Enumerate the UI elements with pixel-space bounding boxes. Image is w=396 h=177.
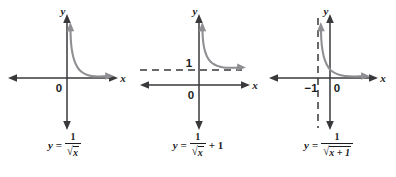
- panel-2-caption: y = 1 √ x + 1: [132, 132, 264, 158]
- panel-3-plot: y x −1 0: [264, 0, 396, 132]
- x-axis-arrow-left: [140, 81, 149, 89]
- curve-inverse-sqrt-x-plus-1-shift: [321, 31, 362, 77]
- equation-1-denominator: √ x: [65, 144, 81, 158]
- equation-2-lhs: y: [173, 140, 178, 151]
- x-axis-arrow-left: [269, 74, 278, 82]
- equation-2-equals: =: [181, 140, 187, 151]
- equation-2-addend: + 1: [209, 140, 224, 151]
- equation-3-lhs: y: [304, 140, 309, 151]
- graph-panel-2: y x 1 0 y = 1 √ x + 1: [132, 0, 264, 177]
- graph-panel-3: y x −1 0 y = 1 √ x + 1: [264, 0, 396, 177]
- radical-icon: √ x: [67, 145, 79, 158]
- curve-inverse-sqrt-x: [71, 31, 107, 77]
- y-axis-arrow-down: [195, 121, 203, 130]
- y-axis-label: y: [322, 5, 329, 17]
- equation-1-fraction: 1 √ x: [65, 132, 81, 158]
- radical-sign: √: [323, 144, 329, 158]
- panel-2-plot: y x 1 0: [132, 0, 264, 132]
- radical-sign: √: [192, 144, 198, 158]
- equation-2-denominator: √ x: [190, 144, 206, 158]
- x-tick-label-minus-1: −1: [304, 82, 318, 94]
- equation-3-numerator: 1: [332, 132, 343, 143]
- equation-3-radicand: x + 1: [329, 146, 351, 158]
- equation-2: y = 1 √ x + 1: [173, 132, 224, 158]
- equation-2-radicand: x: [198, 146, 204, 158]
- y-tick-label-1: 1: [186, 57, 193, 69]
- equation-1-lhs: y: [48, 140, 53, 151]
- radical-sign: √: [67, 144, 73, 158]
- panel-1-caption: y = 1 √ x: [0, 132, 132, 158]
- origin-label: 0: [334, 82, 340, 94]
- y-axis-arrow-down: [326, 121, 334, 130]
- origin-label: 0: [56, 82, 62, 94]
- x-axis-label: x: [119, 72, 126, 84]
- x-axis-arrow-right: [241, 81, 250, 89]
- y-axis-arrow-down: [63, 121, 71, 130]
- equation-2-fraction: 1 √ x: [190, 132, 206, 158]
- x-axis-label: x: [379, 72, 386, 84]
- equation-2-numerator: 1: [192, 132, 203, 143]
- radical-icon: √ x: [192, 145, 204, 158]
- equation-1-numerator: 1: [68, 132, 79, 143]
- x-axis-arrow-right: [369, 74, 378, 82]
- x-axis-label: x: [251, 79, 258, 91]
- panel-3-caption: y = 1 √ x + 1: [264, 132, 396, 158]
- x-axis-arrow-left: [8, 74, 17, 82]
- equation-1: y = 1 √ x: [48, 132, 84, 158]
- equation-3-denominator: √ x + 1: [321, 144, 353, 158]
- y-axis-label: y: [191, 5, 198, 17]
- figure-three-graphs: y x 0 y = 1 √ x: [0, 0, 396, 177]
- equation-3-fraction: 1 √ x + 1: [321, 132, 353, 158]
- panel-1-plot: y x 0: [0, 0, 132, 132]
- radical-icon: √ x + 1: [323, 145, 351, 158]
- equation-3-equals: =: [312, 140, 318, 151]
- equation-1-equals: =: [56, 140, 62, 151]
- equation-3: y = 1 √ x + 1: [304, 132, 356, 158]
- origin-label: 0: [188, 89, 194, 101]
- equation-1-radicand: x: [73, 146, 79, 158]
- graph-panel-1: y x 0 y = 1 √ x: [0, 0, 132, 177]
- y-axis-label: y: [59, 5, 66, 17]
- curve-inverse-sqrt-x-plus-1: [203, 31, 239, 68]
